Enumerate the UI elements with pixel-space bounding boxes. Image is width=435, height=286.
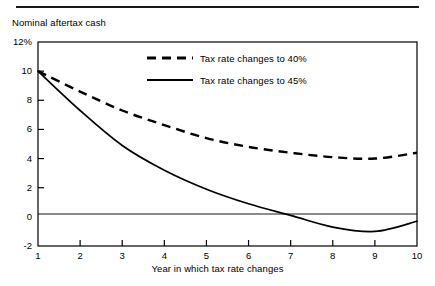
- y-tick-label: 2: [2, 182, 32, 193]
- x-tick-label: 10: [405, 250, 429, 261]
- x-tick-label: 1: [26, 250, 50, 261]
- x-tick-label: 9: [363, 250, 387, 261]
- x-tick-label: 3: [110, 250, 134, 261]
- x-tick-label: 5: [194, 250, 218, 261]
- y-tick-label: 6: [2, 123, 32, 134]
- y-tick-label: 4: [2, 153, 32, 164]
- y-tick-label: 8: [2, 94, 32, 105]
- x-tick-label: 2: [68, 250, 92, 261]
- legend-label-0: Tax rate changes to 40%: [200, 53, 307, 64]
- y-tick-label: 12%: [2, 36, 32, 47]
- x-tick-label: 4: [152, 250, 176, 261]
- x-tick-label: 6: [237, 250, 261, 261]
- y-axis-ticks: [38, 71, 44, 188]
- x-tick-label: 7: [279, 250, 303, 261]
- x-tick-label: 8: [321, 250, 345, 261]
- y-tick-label: 0: [2, 211, 32, 222]
- legend-label-1: Tax rate changes to 45%: [200, 75, 307, 86]
- x-axis-title: Year in which tax rate changes: [0, 263, 435, 275]
- series-line-solid: [38, 71, 417, 231]
- plot-area: [0, 0, 435, 286]
- chart-figure: Nominal aftertax cash -2024681012% 12345…: [0, 0, 435, 286]
- x-axis-ticks: [80, 240, 375, 246]
- y-tick-label: 10: [2, 65, 32, 76]
